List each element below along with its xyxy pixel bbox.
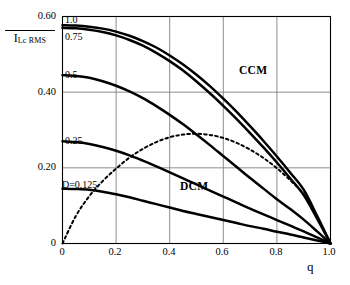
curve-d-0-125 xyxy=(63,189,331,244)
data-curves xyxy=(63,25,331,243)
curve-0-5 xyxy=(63,75,331,243)
chart-figure: ILc RMS 0.60 0.40 0.20 0 0 0.2 0.4 0.6 0… xyxy=(0,0,350,285)
plot-canvas xyxy=(0,0,350,285)
